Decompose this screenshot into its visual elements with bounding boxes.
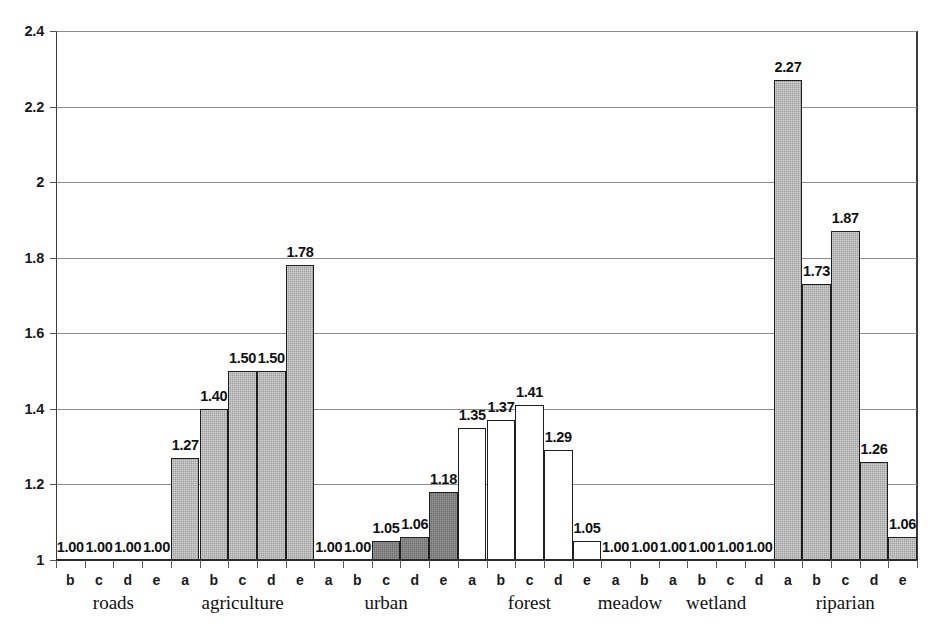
bar-forest-e bbox=[573, 541, 602, 560]
y-axis-tick-label: 1.8 bbox=[0, 250, 44, 266]
x-axis-tick bbox=[257, 560, 258, 568]
x-category-label-urban-b: b bbox=[353, 572, 362, 588]
value-label-roads-b: 1.00 bbox=[57, 539, 84, 555]
value-label-agriculture-d: 1.50 bbox=[258, 350, 285, 366]
x-group-label-forest: forest bbox=[508, 592, 551, 614]
y-axis-tick bbox=[50, 258, 57, 259]
value-label-agriculture-c: 1.50 bbox=[229, 350, 256, 366]
x-category-label-riparian-a: a bbox=[784, 572, 792, 588]
bar-riparian-e bbox=[888, 537, 917, 560]
x-category-label-meadow-b: b bbox=[640, 572, 649, 588]
x-axis-tick bbox=[774, 560, 775, 568]
x-axis-tick bbox=[458, 560, 459, 568]
x-category-label-riparian-c: c bbox=[841, 572, 849, 588]
x-category-label-roads-c: c bbox=[95, 572, 103, 588]
y-axis-tick-label: 2 bbox=[0, 174, 44, 190]
x-axis-tick bbox=[171, 560, 172, 568]
x-category-label-agriculture-d: d bbox=[267, 572, 276, 588]
gridline bbox=[56, 31, 917, 32]
plot-right-border bbox=[916, 31, 917, 560]
x-category-label-roads-d: d bbox=[124, 572, 133, 588]
x-axis-tick bbox=[831, 560, 832, 568]
bar-urban-c bbox=[372, 541, 401, 560]
value-label-roads-e: 1.00 bbox=[143, 539, 170, 555]
bar-riparian-d bbox=[860, 462, 889, 560]
x-category-label-forest-d: d bbox=[554, 572, 563, 588]
x-axis-tick bbox=[286, 560, 287, 568]
y-axis-tick bbox=[50, 31, 57, 32]
x-axis-tick bbox=[372, 560, 373, 568]
y-axis-tick bbox=[50, 182, 57, 183]
x-axis-tick bbox=[515, 560, 516, 568]
y-axis-tick-label: 1 bbox=[0, 552, 44, 568]
x-category-label-riparian-e: e bbox=[899, 572, 907, 588]
x-axis-tick bbox=[745, 560, 746, 568]
x-axis-tick bbox=[544, 560, 545, 568]
y-axis-tick-label: 1.4 bbox=[0, 401, 44, 417]
x-axis-tick bbox=[228, 560, 229, 568]
bar-agriculture-c bbox=[228, 371, 257, 560]
value-label-riparian-a: 2.27 bbox=[774, 59, 801, 75]
value-label-urban-b: 1.00 bbox=[344, 539, 371, 555]
value-label-forest-d: 1.29 bbox=[545, 429, 572, 445]
x-group-label-meadow: meadow bbox=[598, 592, 662, 614]
x-axis-tick bbox=[113, 560, 114, 568]
value-label-agriculture-e: 1.78 bbox=[286, 244, 313, 260]
x-category-label-agriculture-b: b bbox=[210, 572, 219, 588]
x-axis-tick bbox=[601, 560, 602, 568]
x-group-label-wetland: wetland bbox=[686, 592, 746, 614]
x-category-label-forest-c: c bbox=[526, 572, 534, 588]
value-label-meadow-a: 1.00 bbox=[602, 539, 629, 555]
value-label-urban-a: 1.00 bbox=[315, 539, 342, 555]
x-axis-tick bbox=[314, 560, 315, 568]
value-label-wetland-b: 1.00 bbox=[688, 539, 715, 555]
x-category-label-forest-b: b bbox=[497, 572, 506, 588]
y-axis-tick bbox=[50, 409, 57, 410]
value-label-wetland-c: 1.00 bbox=[717, 539, 744, 555]
y-axis-tick bbox=[50, 333, 57, 334]
bar-forest-b bbox=[487, 420, 516, 560]
x-group-label-urban: urban bbox=[364, 592, 407, 614]
value-label-forest-b: 1.37 bbox=[487, 399, 514, 415]
x-category-label-forest-a: a bbox=[468, 572, 476, 588]
value-label-riparian-b: 1.73 bbox=[803, 263, 830, 279]
x-axis-tick bbox=[400, 560, 401, 568]
y-axis-tick bbox=[50, 107, 57, 108]
bar-chart: 11.21.41.61.822.22.4 1.001.001.001.001.2… bbox=[0, 0, 947, 624]
x-category-label-agriculture-e: e bbox=[296, 572, 304, 588]
x-category-label-agriculture-c: c bbox=[239, 572, 247, 588]
x-category-label-wetland-d: d bbox=[755, 572, 764, 588]
value-label-wetland-a: 1.00 bbox=[659, 539, 686, 555]
x-category-label-urban-e: e bbox=[439, 572, 447, 588]
bar-forest-a bbox=[458, 428, 487, 560]
value-label-riparian-e: 1.06 bbox=[889, 516, 916, 532]
value-label-urban-d: 1.06 bbox=[401, 516, 428, 532]
x-category-label-urban-d: d bbox=[411, 572, 420, 588]
y-axis-tick-label: 2.2 bbox=[0, 99, 44, 115]
x-group-label-riparian: riparian bbox=[816, 592, 875, 614]
x-category-label-wetland-c: c bbox=[727, 572, 735, 588]
bar-forest-c bbox=[515, 405, 544, 560]
x-axis-tick bbox=[917, 560, 918, 568]
bar-riparian-c bbox=[831, 231, 860, 560]
value-label-wetland-d: 1.00 bbox=[746, 539, 773, 555]
bar-urban-e bbox=[429, 492, 458, 560]
x-category-label-wetland-b: b bbox=[698, 572, 707, 588]
bar-riparian-b bbox=[802, 284, 831, 560]
x-category-label-urban-c: c bbox=[382, 572, 390, 588]
x-category-label-agriculture-a: a bbox=[181, 572, 189, 588]
x-axis-tick bbox=[56, 560, 57, 568]
x-category-label-forest-e: e bbox=[583, 572, 591, 588]
value-label-riparian-d: 1.26 bbox=[860, 441, 887, 457]
x-category-label-roads-e: e bbox=[152, 572, 160, 588]
value-label-roads-d: 1.00 bbox=[114, 539, 141, 555]
x-axis-tick bbox=[429, 560, 430, 568]
y-axis-tick-label: 1.2 bbox=[0, 476, 44, 492]
x-category-label-meadow-a: a bbox=[612, 572, 620, 588]
x-category-label-wetland-a: a bbox=[669, 572, 677, 588]
value-label-meadow-b: 1.00 bbox=[631, 539, 658, 555]
x-axis-tick bbox=[860, 560, 861, 568]
x-axis-tick bbox=[687, 560, 688, 568]
x-axis-tick bbox=[200, 560, 201, 568]
x-category-label-urban-a: a bbox=[325, 572, 333, 588]
